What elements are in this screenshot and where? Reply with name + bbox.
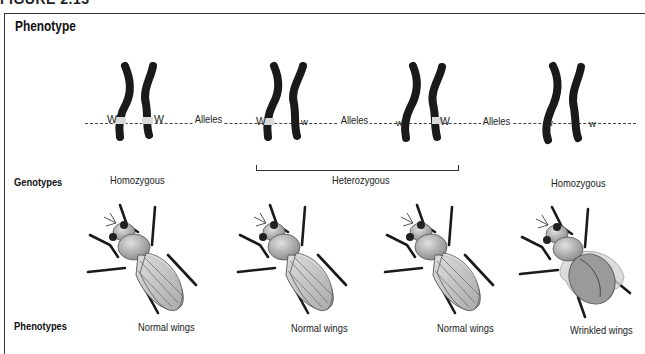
alleles-label-2: Alleles: [339, 114, 370, 126]
allele-2-right: w: [301, 116, 308, 127]
genotype-heterozygous: Heterozygous: [332, 174, 390, 186]
fly-icon: [0, 195, 636, 325]
phenotype-1: Normal wings: [138, 321, 195, 333]
alleles-label-3: Alleles: [481, 115, 512, 127]
allele-3-right: W: [440, 115, 450, 127]
allele-2-left: W: [256, 115, 266, 127]
chromosome-pair-1: [0, 0, 636, 160]
heterozygous-bracket: [256, 165, 459, 171]
phenotype-3: Normal wings: [437, 322, 494, 334]
allele-1-left: W: [107, 113, 117, 125]
allele-1-right: W: [154, 113, 164, 125]
genotype-homozygous-left: Homozygous: [110, 174, 165, 186]
phenotype-2: Normal wings: [291, 322, 348, 334]
allele-3-left: w: [396, 117, 403, 128]
genotypes-row-label: Genotypes: [14, 176, 62, 188]
phenotypes-row-label: Phenotypes: [14, 320, 67, 332]
alleles-label-1: Alleles: [193, 113, 224, 125]
phenotype-4: Wrinkled wings: [570, 324, 633, 336]
genotype-homozygous-right: Homozygous: [551, 177, 606, 189]
allele-4-right: w: [589, 118, 596, 129]
allele-4-left: w: [546, 117, 553, 128]
